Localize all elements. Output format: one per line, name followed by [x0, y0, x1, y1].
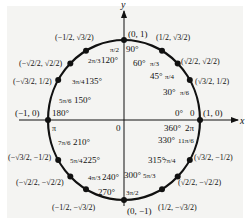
angle-point-30 [187, 77, 193, 83]
deg-45: 45° [150, 71, 163, 81]
unit-circle-diagram: x y 0 (0, 1) 90° π/2 (1/2, √3/2) 60° π/3… [0, 0, 248, 224]
angle-point-45 [175, 60, 181, 66]
deg-360: 360° [164, 123, 182, 133]
rad-300: 5π/3 [143, 172, 156, 180]
coord-300: (1/2, −√3/2) [158, 203, 197, 212]
deg-120: 120° [101, 55, 119, 65]
coord-45: (√2/2, √2/2) [181, 57, 220, 66]
coord-0: (1, 0) [203, 108, 223, 118]
rad-315: 7π/4 [163, 157, 176, 165]
rad-360: 2π [185, 123, 195, 133]
angle-point-135 [67, 60, 73, 66]
coord-270: (0, −1) [127, 206, 152, 216]
coord-225: (−√2/2, −√2/2) [16, 178, 64, 187]
coord-240: (−1/2, −√3/2) [52, 203, 96, 212]
deg-270: 270° [98, 187, 116, 197]
angle-point-120 [83, 48, 89, 54]
rad-270: 3π/2 [126, 189, 139, 197]
deg-300: 300° [124, 170, 142, 180]
rad-330: 11π/6 [178, 137, 194, 145]
coord-315: (√2/2, −√2/2) [178, 178, 221, 187]
deg-90: 90° [126, 44, 139, 54]
angle-point-60 [159, 48, 165, 54]
angle-point-330 [187, 157, 193, 163]
angle-point-300 [159, 186, 165, 192]
rad-60: π/3 [150, 60, 159, 68]
coord-180: (−1, 0) [15, 108, 40, 118]
deg-135: 135° [85, 76, 103, 86]
deg-60: 60° [133, 58, 146, 68]
deg-150: 150° [74, 95, 92, 105]
coord-90: (0, 1) [128, 29, 148, 39]
origin-label: 0 [116, 123, 121, 133]
coord-330: (√3/2, −1/2) [194, 153, 233, 162]
angle-point-90 [121, 37, 127, 43]
coord-120: (−1/2, √3/2) [55, 33, 94, 42]
rad-30: π/6 [180, 89, 189, 97]
rad-210: 7π/6 [58, 139, 71, 147]
deg-30: 30° [163, 87, 176, 97]
angle-point-210 [55, 157, 61, 163]
rad-240: 4π/3 [88, 174, 101, 182]
angle-point-225 [67, 174, 73, 180]
deg-330: 330° [158, 135, 176, 145]
rad-135: 3π/4 [72, 78, 85, 86]
coord-150: (−√3/2, 1/2) [13, 77, 52, 86]
rad-180: π [52, 124, 56, 133]
coord-210: (−√3/2, −1/2) [8, 153, 52, 162]
x-axis-label: x [239, 115, 245, 126]
angle-point-150 [55, 77, 61, 83]
rad-0: 0 [190, 108, 195, 118]
coord-60: (1/2, √3/2) [156, 33, 191, 42]
rad-150: 5π/6 [59, 97, 72, 105]
y-axis-label: y [120, 0, 126, 10]
angle-point-180 [45, 117, 51, 123]
angle-point-240 [83, 186, 89, 192]
deg-210: 210° [73, 137, 91, 147]
deg-225: 225° [83, 155, 101, 165]
coord-30: (√3/2, 1/2) [195, 77, 230, 86]
deg-180: 180° [52, 108, 70, 118]
rad-120: 2π/3 [88, 57, 101, 65]
rad-45: π/4 [165, 73, 174, 81]
angle-point-270 [121, 197, 127, 203]
rad-90: π/2 [110, 46, 119, 54]
deg-0: 0° [175, 108, 184, 118]
coord-135: (−√2/2, √2/2) [19, 59, 62, 68]
deg-240: 240° [102, 172, 120, 182]
unit-circle-svg: x y 0 (0, 1) 90° π/2 (1/2, √3/2) 60° π/3… [0, 0, 248, 224]
rad-225: 5π/4 [70, 157, 83, 165]
